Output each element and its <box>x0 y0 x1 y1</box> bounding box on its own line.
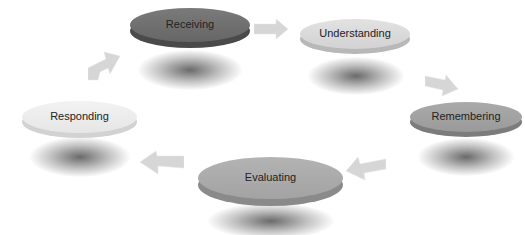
node-shadow <box>138 50 242 90</box>
arrow-up-right-icon <box>88 50 122 82</box>
node-understanding: Understanding <box>300 19 410 99</box>
arrow-down-left-icon <box>342 155 386 185</box>
arrow-right-icon <box>254 18 290 40</box>
node-receiving: Receiving <box>130 8 250 88</box>
node-remembering: Remembering <box>410 102 522 182</box>
node-label: Receiving <box>130 18 250 30</box>
node-label: Remembering <box>410 110 522 122</box>
node-responding: Responding <box>22 101 137 181</box>
node-label: Responding <box>22 110 137 122</box>
node-shadow <box>30 137 130 177</box>
arrow-down-right-icon <box>425 72 461 100</box>
arrow-left-icon <box>138 150 184 178</box>
node-shadow <box>308 57 404 95</box>
node-shadow <box>418 138 514 176</box>
node-label: Understanding <box>300 27 410 39</box>
node-evaluating: Evaluating <box>198 157 343 235</box>
node-label: Evaluating <box>198 171 343 183</box>
node-shadow <box>208 203 334 235</box>
